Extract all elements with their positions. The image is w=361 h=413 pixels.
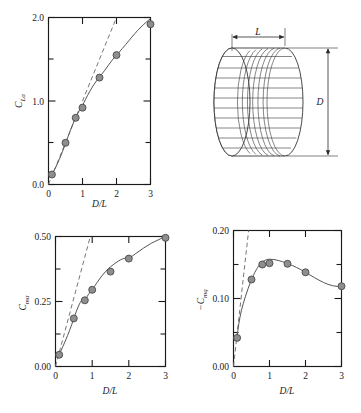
cma-svg: 0.50 0.25 0.00 0 1 2 3 D/L Cmα: [0, 208, 180, 413]
cmq-axes-frame: [234, 231, 342, 367]
cma-axes-frame: [56, 237, 166, 367]
chart-panel-cma: 0.50 0.25 0.00 0 1 2 3 D/L Cmα: [0, 208, 180, 413]
figure-canvas: 2.0 1.0 0.0 0 1 2 3 D/L CLα: [0, 0, 361, 413]
cla-ytick-1: 1.0: [32, 97, 44, 107]
cmq-svg: 0.20 0.10 0.00 0 1 2 3 D/L −Cmq: [180, 208, 361, 413]
cla-plot-area: [48, 18, 154, 185]
cmq-yaxis-label-sub: mq: [201, 289, 209, 298]
cla-x-tick-labels: 0 1 2 3: [46, 189, 153, 199]
cla-xtick-0: 0: [46, 189, 51, 199]
cma-plot-area: [56, 234, 170, 366]
diameter-label: D: [316, 97, 324, 107]
cma-xaxis-label: D/L: [102, 386, 118, 396]
cma-tick-marks: [56, 237, 166, 367]
cma-yaxis-label-sub: mα: [23, 295, 31, 304]
cma-y-tick-labels: 0.50 0.25 0.00: [34, 232, 51, 372]
cmq-ytick-2: 0.20: [212, 226, 229, 236]
cla-ytick-0: 0.0: [32, 180, 44, 190]
cmq-data-points: [234, 260, 345, 342]
cma-data-curve: [59, 237, 165, 355]
cmq-xtick-3: 3: [339, 371, 344, 381]
cla-y-tick-labels: 2.0 1.0 0.0: [32, 13, 44, 190]
cla-yaxis-label-sub: Lα: [19, 94, 27, 103]
cla-svg: 2.0 1.0 0.0 0 1 2 3 D/L CLα: [0, 0, 186, 208]
cmq-xtick-2: 2: [303, 371, 308, 381]
cma-yaxis-label: Cmα: [18, 295, 31, 310]
length-dimension: L: [232, 27, 285, 51]
cmq-xtick-1: 1: [267, 371, 272, 381]
svg-text:CLα: CLα: [14, 94, 27, 108]
cla-axes-frame: [49, 18, 151, 185]
cmq-ytick-0: 0.00: [212, 362, 229, 372]
cma-data-points: [56, 234, 169, 358]
cmq-xtick-0: 0: [231, 371, 236, 381]
cla-xtick-3: 3: [148, 189, 153, 199]
cla-data-points: [48, 21, 154, 178]
cmq-tick-marks: [234, 231, 342, 367]
svg-text:Cmα: Cmα: [18, 295, 31, 310]
cma-x-tick-labels: 0 1 2 3: [53, 371, 168, 381]
cmq-yaxis-label: −Cmq: [196, 289, 209, 311]
svg-text:−Cmq: −Cmq: [196, 289, 209, 311]
cmq-xaxis-label: D/L: [279, 386, 295, 396]
cla-xaxis-label: D/L: [91, 199, 107, 208]
cma-ytick-2: 0.50: [34, 232, 51, 242]
cla-ytick-2: 2.0: [32, 13, 44, 23]
cmq-plot-area: [234, 231, 346, 367]
cla-tick-marks: [49, 18, 151, 185]
cylinder-body: [214, 48, 303, 156]
length-label: L: [254, 27, 260, 37]
cla-data-curve: [52, 19, 151, 175]
body-schematic-panel: L D: [186, 4, 361, 194]
cla-xtick-1: 1: [80, 189, 85, 199]
cmq-y-tick-labels: 0.20 0.10 0.00: [212, 226, 229, 372]
cmq-data-curve: [237, 259, 341, 338]
body-schematic-svg: L D: [186, 4, 361, 194]
cla-yaxis-label: CLα: [14, 94, 27, 108]
cmq-x-tick-labels: 0 1 2 3: [231, 371, 344, 381]
cylinder-left-cap: [214, 48, 250, 156]
chart-panel-cla: 2.0 1.0 0.0 0 1 2 3 D/L CLα: [0, 0, 186, 208]
cma-xtick-1: 1: [90, 371, 95, 381]
cmq-ytick-1: 0.10: [212, 294, 229, 304]
cma-xtick-3: 3: [163, 371, 168, 381]
cma-ytick-1: 0.25: [34, 297, 51, 307]
cma-ytick-0: 0.00: [34, 362, 51, 372]
cla-xtick-2: 2: [114, 189, 119, 199]
chart-panel-cmq: 0.20 0.10 0.00 0 1 2 3 D/L −Cmq: [180, 208, 361, 413]
cma-xtick-0: 0: [53, 371, 58, 381]
cma-xtick-2: 2: [126, 371, 131, 381]
